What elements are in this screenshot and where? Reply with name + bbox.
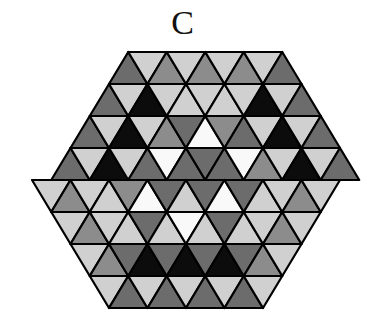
triangle-hexagon-pattern: [0, 0, 365, 312]
triangle-grid: [32, 52, 359, 308]
